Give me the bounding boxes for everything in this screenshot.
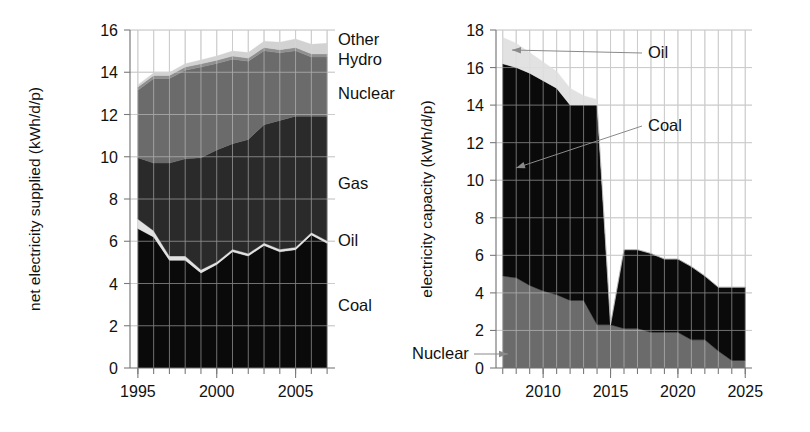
x-tick-label-2020: 2020	[660, 383, 696, 400]
y-tick-label-6: 6	[475, 247, 484, 264]
x-tick-label-2015: 2015	[593, 383, 629, 400]
series-label-nuclear: Nuclear	[338, 84, 395, 102]
figure-root: 0246810121416199520002005net electricity…	[0, 0, 810, 432]
y-tick-label-0: 0	[475, 360, 484, 377]
series-label-gas: Gas	[338, 174, 368, 192]
x-tick-label-2000: 2000	[199, 383, 235, 400]
y-axis-title: net electricity supplied (kWh/d/p)	[26, 87, 43, 311]
annotation-label-nuclear: Nuclear	[412, 344, 469, 362]
y-axis-title: electricity capacity (kWh/d/p)	[418, 100, 435, 297]
y-tick-label-6: 6	[109, 233, 118, 250]
x-tick-label-2010: 2010	[525, 383, 561, 400]
y-tick-label-16: 16	[466, 60, 484, 77]
annotation-label-coal: Coal	[648, 116, 682, 134]
y-tick-label-2: 2	[475, 322, 484, 339]
x-tick-label-1995: 1995	[120, 383, 156, 400]
y-tick-label-2: 2	[109, 318, 118, 335]
y-tick-label-10: 10	[100, 149, 118, 166]
y-tick-label-16: 16	[100, 22, 118, 39]
y-tick-label-0: 0	[109, 360, 118, 377]
y-tick-label-10: 10	[466, 172, 484, 189]
series-label-coal: Coal	[338, 296, 372, 314]
y-tick-label-18: 18	[466, 22, 484, 39]
x-tick-label-2005: 2005	[278, 383, 314, 400]
y-tick-label-12: 12	[466, 135, 484, 152]
series-label-hydro: Hydro	[338, 50, 382, 68]
series-label-oil: Oil	[338, 231, 358, 249]
y-tick-label-14: 14	[100, 64, 118, 81]
y-tick-label-8: 8	[475, 210, 484, 227]
y-tick-label-8: 8	[109, 191, 118, 208]
y-tick-label-14: 14	[466, 97, 484, 114]
x-tick-label-2025: 2025	[727, 383, 763, 400]
series-label-other: Other	[338, 30, 380, 48]
y-tick-label-4: 4	[109, 276, 118, 293]
y-tick-label-12: 12	[100, 107, 118, 124]
y-tick-label-4: 4	[475, 285, 484, 302]
annotation-label-oil: Oil	[648, 43, 668, 61]
